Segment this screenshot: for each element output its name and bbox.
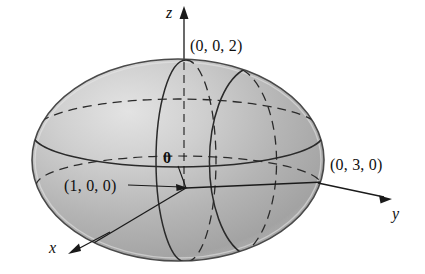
y-axis-label: y <box>392 206 399 222</box>
ellipsoid-surface <box>32 59 324 261</box>
y-intercept-label: (0, 3, 0) <box>330 157 382 173</box>
z-intercept-label: (0, 0, 2) <box>190 38 242 54</box>
y-axis <box>318 183 392 204</box>
x-intercept-label: (1, 0, 0) <box>64 178 116 194</box>
origin-label: 0 <box>163 150 171 166</box>
x-axis-label: x <box>49 240 56 256</box>
z-axis-label: z <box>166 5 172 21</box>
